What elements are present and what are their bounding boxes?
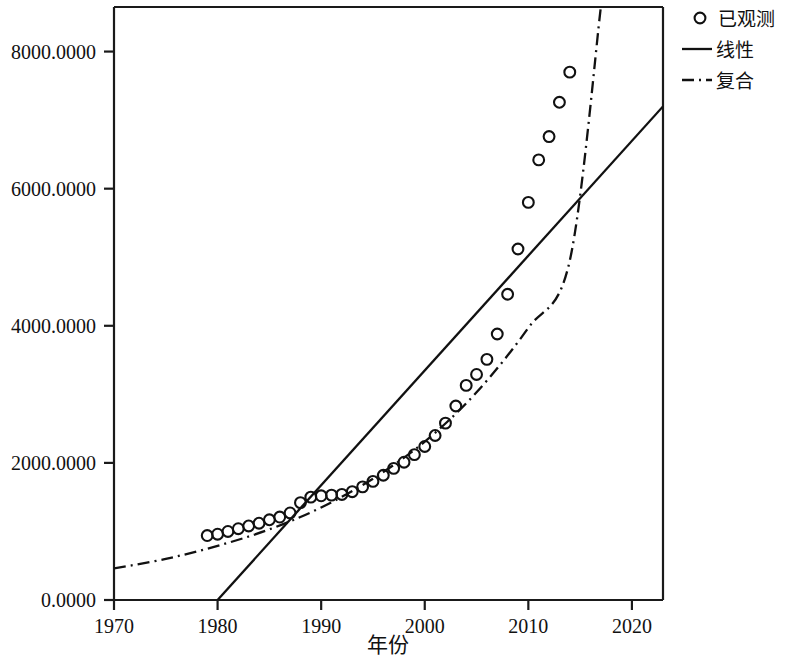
x-tick-label: 1970	[94, 615, 134, 637]
x-tick-label: 2000	[405, 615, 445, 637]
legend-label: 复合	[716, 71, 754, 92]
y-tick-label: 2000.0000	[11, 452, 96, 474]
chart-canvas: 0.00002000.00004000.00006000.00008000.00…	[0, 0, 796, 662]
x-tick-label: 2010	[508, 615, 548, 637]
y-tick-label: 0.0000	[41, 589, 96, 611]
x-tick-label: 1980	[198, 615, 238, 637]
x-tick-label: 1990	[301, 615, 341, 637]
chart-background	[0, 0, 796, 662]
y-tick-label: 4000.0000	[11, 315, 96, 337]
y-tick-label: 6000.0000	[11, 178, 96, 200]
x-axis-title: 年份	[367, 633, 409, 656]
x-tick-label: 2020	[612, 615, 652, 637]
y-tick-label: 8000.0000	[11, 41, 96, 63]
chart-figure: 0.00002000.00004000.00006000.00008000.00…	[0, 0, 796, 662]
legend-label: 线性	[716, 40, 754, 61]
legend-label: 已观测	[718, 9, 775, 30]
